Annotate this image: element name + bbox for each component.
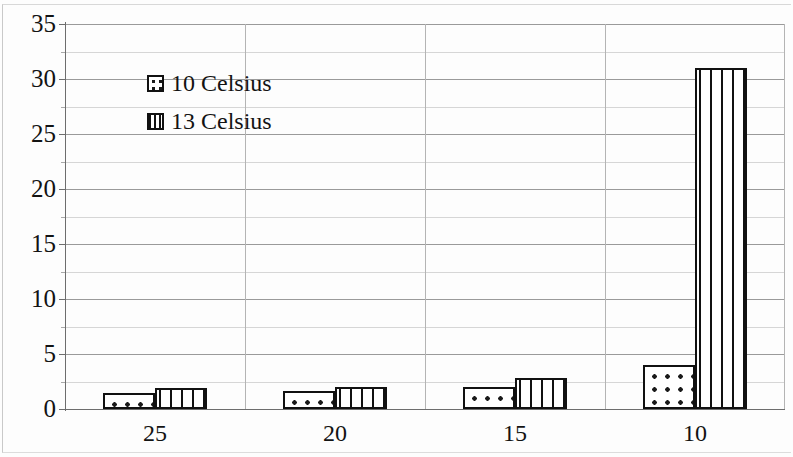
bar-13-celsius-25 xyxy=(155,388,207,409)
bar-10-celsius-25 xyxy=(103,393,155,410)
legend-label: 10 Celsius xyxy=(171,71,272,95)
bar-13-celsius-15 xyxy=(515,378,567,409)
dotted-pattern-swatch-icon xyxy=(147,75,164,92)
x-tick-label-20: 20 xyxy=(245,418,425,454)
bar-10-celsius-10 xyxy=(643,365,695,409)
y-tick-label: 10 xyxy=(8,286,56,311)
gridline-zero-baseline xyxy=(65,409,785,410)
bar-10-celsius-15 xyxy=(463,387,515,409)
bar-group-10 xyxy=(605,24,785,409)
legend-label: 13 Celsius xyxy=(171,109,272,133)
x-tick-label-10: 10 xyxy=(605,418,785,454)
vertical-lines-pattern-swatch-icon xyxy=(147,113,164,130)
bar-10-celsius-20 xyxy=(283,391,335,409)
y-tick-label: 15 xyxy=(8,231,56,256)
bar-13-celsius-20 xyxy=(335,387,387,409)
bar-13-celsius-10 xyxy=(695,68,747,409)
y-axis-tick-labels: 35 30 25 20 15 10 5 0 xyxy=(0,24,56,409)
bar-group-15 xyxy=(425,24,605,409)
y-tick-label: 20 xyxy=(8,176,56,201)
y-tick-label: 35 xyxy=(8,11,56,36)
y-tick-label: 5 xyxy=(8,341,56,366)
x-axis-tick-labels: 25 20 15 10 xyxy=(65,418,785,454)
chart-legend: 10 Celsius 13 Celsius xyxy=(147,64,357,140)
legend-entry-10-celsius: 10 Celsius xyxy=(147,64,357,102)
x-tick-label-15: 15 xyxy=(425,418,605,454)
legend-entry-13-celsius: 13 Celsius xyxy=(147,102,357,140)
y-axis-tick xyxy=(59,409,65,410)
x-tick-label-25: 25 xyxy=(65,418,245,454)
y-tick-label: 25 xyxy=(8,121,56,146)
y-tick-label: 0 xyxy=(8,396,56,421)
bar-chart: 35 30 25 20 15 10 5 0 xyxy=(0,0,793,457)
y-tick-label: 30 xyxy=(8,66,56,91)
plot-area: 10 Celsius 13 Celsius xyxy=(65,24,785,409)
